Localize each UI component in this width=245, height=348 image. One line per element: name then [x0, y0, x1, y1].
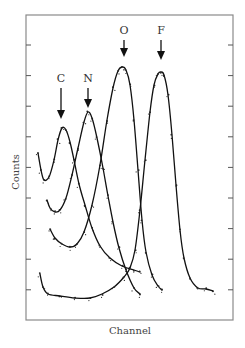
data-point — [77, 148, 79, 150]
data-point — [122, 265, 124, 267]
data-point — [168, 94, 170, 96]
data-point — [70, 178, 71, 179]
data-point — [158, 285, 160, 287]
data-point — [111, 223, 112, 224]
data-point — [161, 289, 163, 291]
data-point — [91, 205, 93, 207]
data-point — [50, 210, 51, 211]
data-point — [63, 129, 64, 130]
data-point — [107, 194, 109, 196]
peak-annotation-o: O — [119, 24, 128, 57]
data-point — [121, 268, 122, 269]
data-point — [133, 270, 135, 272]
data-point — [106, 120, 108, 122]
data-point — [117, 70, 119, 72]
arrowhead-icon — [57, 110, 65, 119]
data-point — [133, 271, 134, 272]
data-point — [145, 159, 147, 161]
data-point — [125, 271, 126, 272]
data-point — [72, 162, 73, 163]
data-point — [74, 299, 75, 300]
data-point — [101, 297, 102, 298]
data-point — [133, 287, 135, 289]
data-point — [117, 248, 118, 249]
series-n — [46, 110, 141, 298]
data-point — [99, 245, 101, 247]
data-point — [197, 288, 198, 289]
data-point — [85, 123, 86, 124]
data-point — [93, 206, 94, 207]
data-point — [112, 288, 113, 289]
data-point — [140, 273, 141, 274]
data-point — [99, 165, 101, 167]
data-point — [43, 179, 45, 181]
data-point — [38, 276, 39, 277]
data-point — [65, 129, 67, 131]
data-point — [154, 87, 155, 88]
data-point — [74, 297, 76, 299]
peak-label: C — [57, 72, 65, 85]
data-point — [36, 154, 37, 155]
data-point — [146, 253, 147, 254]
data-point — [205, 287, 207, 289]
data-point — [138, 169, 140, 171]
data-point — [76, 243, 78, 245]
data-point — [102, 168, 104, 170]
data-point — [86, 110, 88, 112]
series-f — [38, 72, 216, 301]
data-point — [183, 257, 185, 259]
data-point — [88, 300, 89, 301]
arrowhead-icon — [157, 51, 165, 60]
data-point — [163, 76, 164, 77]
data-point — [65, 198, 67, 200]
data-point — [70, 250, 71, 251]
data-point — [151, 276, 152, 277]
data-point — [125, 268, 127, 270]
arrowhead-icon — [120, 48, 128, 57]
data-point — [179, 228, 181, 230]
data-point — [176, 186, 177, 187]
data-point — [114, 90, 115, 91]
data-point — [156, 287, 157, 288]
data-point — [84, 206, 85, 207]
data-point — [48, 203, 49, 204]
data-point — [152, 273, 154, 275]
data-point — [57, 138, 59, 140]
data-point — [160, 72, 162, 74]
data-point — [43, 182, 44, 183]
data-point — [54, 162, 55, 163]
arrowhead-icon — [84, 99, 92, 108]
data-point — [108, 257, 110, 259]
data-point — [157, 73, 159, 75]
data-point — [123, 69, 124, 70]
data-point — [92, 230, 93, 231]
data-point — [130, 86, 131, 87]
data-point — [189, 279, 190, 280]
data-point — [148, 113, 149, 114]
peak-annotation-c: C — [57, 72, 65, 119]
data-point — [59, 143, 60, 144]
data-point — [149, 111, 151, 113]
x-axis-label: Channel — [109, 325, 151, 336]
data-point — [54, 210, 56, 212]
data-point — [85, 234, 86, 235]
data-point — [212, 290, 214, 292]
data-point — [104, 169, 105, 170]
data-point — [171, 138, 172, 139]
data-point — [61, 296, 62, 297]
data-point — [119, 246, 121, 248]
data-point — [50, 208, 52, 210]
peak-label: F — [157, 24, 165, 37]
data-point — [78, 183, 80, 185]
data-point — [184, 259, 185, 260]
data-point — [69, 246, 71, 248]
data-point — [60, 212, 61, 213]
data-point — [136, 171, 137, 172]
plot-frame — [26, 15, 233, 320]
data-point — [170, 134, 172, 136]
data-point — [39, 173, 40, 174]
data-point — [40, 169, 42, 171]
y-axis-label: Counts — [10, 154, 21, 190]
data-point — [77, 187, 78, 188]
data-point — [59, 296, 61, 298]
